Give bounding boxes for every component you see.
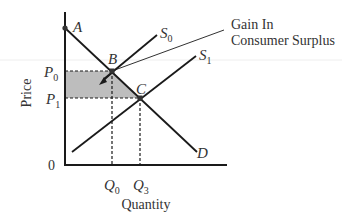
annotation-line-1: Gain In (231, 17, 273, 32)
x-axis-title: Quantity (122, 197, 171, 212)
consumer-surplus-gain-area (65, 71, 140, 98)
y-axis-title: Price (19, 79, 34, 108)
supply-demand-diagram: A B C S0 S1 D P0 P1 Q0 Q3 0 Price Quanti… (0, 0, 342, 224)
point-b-marker (110, 69, 115, 74)
point-a-marker (62, 25, 67, 30)
q0-label: Q0 (104, 177, 120, 196)
point-b-label: B (108, 51, 117, 67)
annotation-line-2: Consumer Surplus (231, 33, 335, 48)
s0-label: S0 (160, 25, 173, 44)
point-c-label: C (136, 81, 147, 97)
origin-label: 0 (48, 158, 55, 173)
s1-label: S1 (199, 47, 212, 66)
q3-label: Q3 (133, 177, 149, 196)
p0-label: P0 (43, 64, 58, 83)
demand-label: D (196, 145, 208, 161)
point-a-label: A (72, 19, 83, 35)
p1-label: P1 (45, 91, 60, 110)
